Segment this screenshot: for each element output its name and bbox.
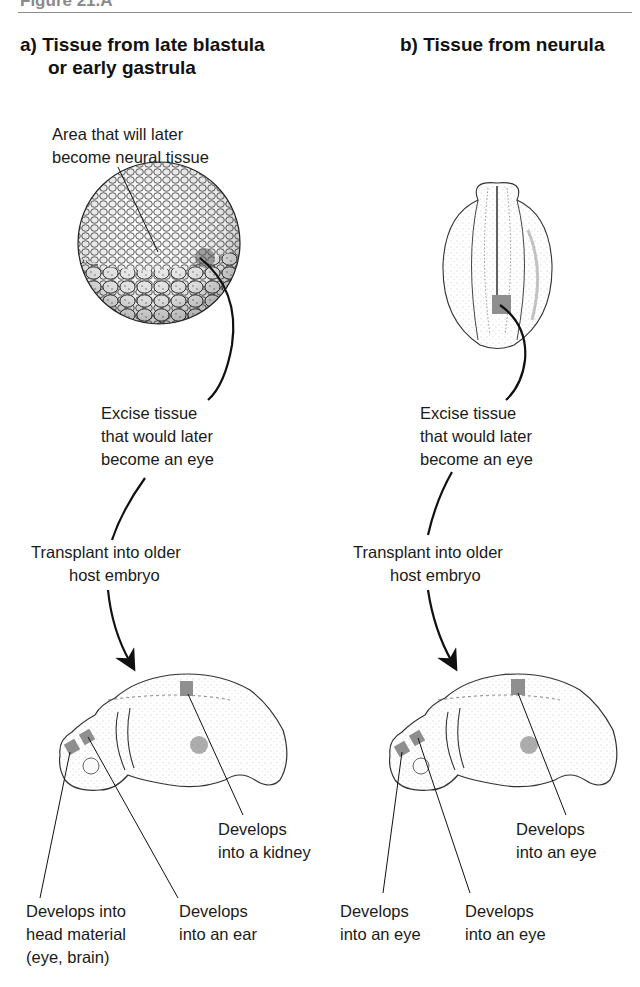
outcome-kidney-line2: into a kidney (218, 841, 311, 864)
host-embryo-b-illustration (390, 674, 617, 790)
outcome-second-eye-line1: Develops (465, 900, 534, 923)
panel-b-excise-line1: Excise tissue (420, 402, 516, 425)
outcome-front-eye-line2: into an eye (340, 923, 421, 946)
neural-area-label-line2: become neural tissue (52, 146, 209, 169)
outcome-kidney-line1: Develops (218, 818, 287, 841)
panel-b-transplant-line1: Transplant into older (353, 541, 503, 564)
panel-b-transplant-line2: host embryo (390, 564, 481, 587)
outcome-head-line3: (eye, brain) (26, 946, 109, 969)
panel-b-excise-line3: become an eye (420, 448, 533, 471)
outcome-second-eye-line2: into an eye (465, 923, 546, 946)
outcome-ear-line1: Develops (179, 900, 248, 923)
panel-a-transplant-line1: Transplant into older (31, 541, 181, 564)
panel-a-transplant-line2: host embryo (69, 564, 160, 587)
panel-a-excise-line2: that would later (101, 425, 213, 448)
blastula-embryo-illustration (70, 162, 245, 330)
panel-a-excise-line1: Excise tissue (101, 402, 197, 425)
outcome-ear-line2: into an ear (179, 923, 257, 946)
outcome-head-line2: head material (26, 923, 126, 946)
panel-b-excise-line2: that would later (420, 425, 532, 448)
neurula-embryo-illustration (443, 183, 552, 349)
neural-area-label-line1: Area that will later (52, 123, 183, 146)
outcome-dorsal-eye-line1: Develops (516, 818, 585, 841)
outcome-head-line1: Develops into (26, 900, 126, 923)
panel-a-excise-line3: become an eye (101, 448, 214, 471)
outcome-dorsal-eye-line2: into an eye (516, 841, 597, 864)
outcome-front-eye-line1: Develops (340, 900, 409, 923)
host-embryo-a-illustration (60, 674, 287, 790)
